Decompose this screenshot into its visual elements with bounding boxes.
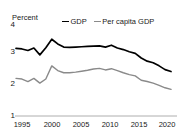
plot-area <box>0 0 183 136</box>
chart-container: Percent 4 3 2 1 1995 2000 2005 2010 2015… <box>0 0 183 136</box>
series-line-per-capita-gdp <box>16 66 171 90</box>
series-line-gdp <box>16 39 171 71</box>
